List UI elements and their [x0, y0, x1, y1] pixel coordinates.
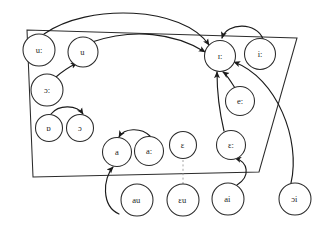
node-a: a — [103, 138, 132, 167]
arrow-uu-to-ih — [44, 13, 209, 45]
node-eh-long: ɛː — [217, 131, 246, 160]
arrow-au-to-a — [105, 167, 119, 214]
node-label: ɒ — [46, 123, 51, 133]
node-ih: ɪː — [205, 41, 236, 72]
node-ai: ai — [212, 183, 244, 215]
arrow-oo-to-u — [56, 63, 77, 77]
node-label: aː — [146, 146, 152, 156]
node-label: au — [132, 195, 141, 205]
node-eu: ɛu — [167, 184, 199, 216]
node-uu: uː — [23, 34, 55, 66]
arrow-aa-to-a — [119, 130, 150, 137]
node-label: ai — [224, 194, 231, 204]
arrow-oi-to-ih — [234, 62, 293, 183]
node-aa: aː — [135, 137, 164, 166]
node-ii: iː — [245, 39, 276, 70]
node-ee: eː — [226, 87, 255, 116]
node-label: a — [115, 147, 119, 157]
arrow-ai-to-eh — [235, 158, 246, 185]
node-u: u — [68, 37, 98, 67]
node-label: ɔi — [291, 194, 298, 204]
node-label: ɛ — [181, 140, 185, 150]
node-eh: ɛ — [170, 132, 197, 159]
node-label: uː — [36, 45, 43, 55]
arrow-oh-to-o — [51, 107, 83, 114]
node-label: ɪː — [218, 51, 223, 61]
diagram-canvas: iː ɪː eː ɛː ɛ aː — [0, 0, 323, 229]
node-au: au — [121, 184, 153, 216]
node-label: ɛː — [228, 140, 234, 150]
node-label: ɔ — [78, 123, 82, 133]
node-turned-a: ɒ — [36, 115, 63, 142]
node-oo: ɔː — [31, 74, 63, 106]
arrow-ee-to-ih — [223, 72, 235, 88]
node-oi: ɔi — [279, 183, 311, 215]
arrow-eh-to-ih — [217, 72, 224, 131]
node-open-o: ɔ — [67, 115, 94, 142]
node-label: iː — [258, 49, 263, 59]
node-label: ɛu — [178, 195, 187, 205]
node-label: ɔː — [44, 85, 50, 95]
node-label: eː — [237, 96, 243, 106]
vowel-shift-diagram: iː ɪː eː ɛː ɛ aː — [0, 0, 323, 229]
arrow-u-to-ih — [92, 34, 205, 52]
